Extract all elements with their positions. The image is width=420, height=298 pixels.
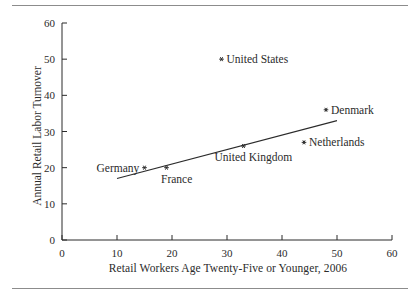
y-axis-title: Annual Retail Labor Turnover <box>31 36 43 236</box>
y-tick-label-60: 60 <box>37 18 55 29</box>
x-tick-label-10: 10 <box>106 248 128 259</box>
x-axis-title: Retail Workers Age Twenty-Five or Younge… <box>62 262 394 274</box>
point-label-denmark: Denmark <box>331 104 374 116</box>
data-point-marker <box>219 57 224 61</box>
y-tick-label-0: 0 <box>37 235 55 246</box>
point-label-united-kingdom: United Kingdom <box>215 151 293 163</box>
point-label-france: France <box>161 173 192 185</box>
x-tick-label-40: 40 <box>271 248 293 259</box>
x-tick-label-0: 0 <box>51 248 73 259</box>
x-tick-label-60: 60 <box>381 248 403 259</box>
trendline-segment <box>117 121 337 179</box>
point-label-netherlands: Netherlands <box>309 136 365 148</box>
figure-container: 01020304050600102030405060 United States… <box>0 0 420 298</box>
x-tick-label-20: 20 <box>161 248 183 259</box>
point-label-united-states: United States <box>227 53 289 65</box>
data-point-marker <box>302 140 307 144</box>
data-point-marker <box>142 166 147 170</box>
x-tick-label-50: 50 <box>326 248 348 259</box>
data-point-marker <box>324 108 329 112</box>
x-tick-label-30: 30 <box>216 248 238 259</box>
point-label-germany: Germany <box>97 162 140 174</box>
trendline <box>117 121 337 179</box>
